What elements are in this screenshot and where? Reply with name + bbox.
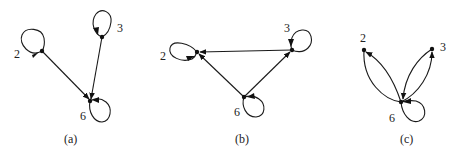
- node-label-6: 6: [389, 111, 395, 125]
- node-label-6: 6: [234, 105, 240, 119]
- node-3: [290, 48, 294, 52]
- edge-6-to-3: [244, 52, 290, 97]
- arrowhead-icon: [93, 27, 99, 35]
- caption-c: (c): [400, 132, 413, 146]
- panel-b: 2 3 6 (b): [160, 21, 311, 146]
- graph-figure: 2 3 6 (a) 2 3 6 (b): [0, 0, 457, 156]
- node-label-3: 3: [117, 21, 123, 35]
- edge-6-to-3-curve: [401, 52, 432, 102]
- node-label-2: 2: [14, 47, 20, 61]
- node-label-3: 3: [284, 21, 290, 35]
- edge-3-to-6: [91, 37, 102, 99]
- edge-2-to-6: [42, 51, 89, 99]
- panel-a: 2 3 6 (a): [14, 11, 123, 146]
- arrowhead-icon: [288, 39, 294, 47]
- node-label-6: 6: [80, 109, 86, 123]
- node-label-2: 2: [360, 31, 366, 45]
- node-2: [362, 48, 366, 52]
- node-label-3: 3: [440, 40, 446, 54]
- node-3: [100, 35, 104, 39]
- node-3: [430, 47, 434, 51]
- caption-a: (a): [64, 132, 77, 146]
- node-6: [88, 99, 92, 103]
- self-loop-3: [291, 30, 311, 52]
- edge-6-to-2-curve-outer: [364, 50, 401, 102]
- edge-6-to-2: [199, 54, 244, 97]
- self-loop-6: [243, 96, 264, 117]
- caption-b: (b): [235, 132, 249, 146]
- node-2: [40, 49, 44, 53]
- edge-3-to-2: [200, 50, 292, 52]
- node-label-2: 2: [160, 49, 166, 63]
- self-loop-6: [401, 101, 425, 122]
- node-6: [399, 100, 403, 104]
- node-6: [242, 95, 246, 99]
- self-loop-6: [90, 99, 111, 122]
- self-loop-2: [170, 43, 197, 60]
- arrowhead-icon: [92, 97, 99, 103]
- panel-c: 2 3 6 (c): [360, 31, 446, 146]
- self-loop-3: [93, 11, 111, 37]
- node-2: [195, 50, 199, 54]
